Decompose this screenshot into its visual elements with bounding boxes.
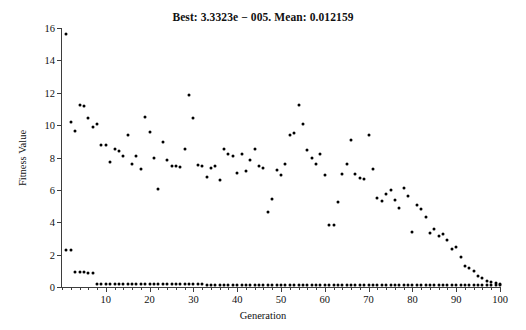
x-tick-minor [447, 287, 448, 290]
data-point [345, 284, 348, 287]
data-point [266, 210, 269, 213]
data-point [126, 133, 129, 136]
x-tick [369, 287, 370, 292]
data-point [179, 166, 182, 169]
data-point [477, 284, 480, 287]
x-tick-minor [307, 287, 308, 290]
x-tick-label: 10 [101, 294, 112, 305]
data-point [319, 284, 322, 287]
data-point [161, 282, 164, 285]
y-axis-label: Fitness Value [17, 130, 28, 186]
data-point [481, 277, 484, 280]
data-point [280, 284, 283, 287]
x-tick-minor [211, 287, 212, 290]
data-point [402, 284, 405, 287]
data-point [223, 148, 226, 151]
data-point [468, 284, 471, 287]
data-point [139, 282, 142, 285]
data-point [371, 284, 374, 287]
data-point [262, 284, 265, 287]
data-point [131, 282, 134, 285]
x-tick-minor [334, 287, 335, 290]
data-point [380, 284, 383, 287]
data-point [266, 284, 269, 287]
data-point [271, 197, 274, 200]
y-tick-label: 10 [45, 120, 56, 131]
data-point [297, 103, 300, 106]
data-point [424, 215, 427, 218]
data-point [389, 284, 392, 287]
y-tick [57, 190, 62, 191]
data-point [157, 282, 160, 285]
data-point [428, 284, 431, 287]
x-tick-label: 70 [363, 294, 374, 305]
data-point [82, 104, 85, 107]
data-point [468, 266, 471, 269]
data-point [323, 284, 326, 287]
data-point [104, 282, 107, 285]
x-tick-minor [272, 287, 273, 290]
data-point [280, 174, 283, 177]
data-point [170, 164, 173, 167]
data-point [301, 122, 304, 125]
data-point [428, 231, 431, 234]
data-point [117, 150, 120, 153]
x-tick-minor [185, 287, 186, 290]
data-point [201, 164, 204, 167]
data-point [293, 284, 296, 287]
data-point [69, 248, 72, 251]
data-point [183, 282, 186, 285]
data-point [442, 284, 445, 287]
x-tick-minor [115, 287, 116, 290]
x-tick-minor [71, 287, 72, 290]
data-point [196, 163, 199, 166]
data-point [393, 284, 396, 287]
y-tick [57, 93, 62, 94]
data-point [100, 282, 103, 285]
data-point [433, 227, 436, 230]
data-point [363, 178, 366, 181]
data-point [385, 192, 388, 195]
data-point [376, 196, 379, 199]
data-point [249, 158, 252, 161]
x-tick-minor [342, 287, 343, 290]
data-point [315, 162, 318, 165]
y-tick-label: 0 [50, 282, 55, 293]
data-point [227, 284, 230, 287]
data-point [354, 284, 357, 287]
data-point [398, 206, 401, 209]
x-tick-minor [220, 287, 221, 290]
data-point [82, 270, 85, 273]
x-tick-minor [395, 287, 396, 290]
data-point [78, 270, 81, 273]
x-tick-minor [202, 287, 203, 290]
data-point [415, 284, 418, 287]
data-point [336, 201, 339, 204]
data-point [485, 280, 488, 283]
data-point [389, 188, 392, 191]
data-point [490, 284, 493, 287]
x-tick [412, 287, 413, 292]
data-point [485, 284, 488, 287]
x-tick [150, 287, 151, 292]
data-point [179, 282, 182, 285]
data-point [74, 129, 77, 132]
x-tick [193, 287, 194, 292]
data-point [350, 284, 353, 287]
y-tick-label: 12 [45, 87, 56, 98]
data-point [455, 245, 458, 248]
data-point [87, 116, 90, 119]
data-point [463, 264, 466, 267]
data-point [117, 282, 120, 285]
data-point [240, 284, 243, 287]
data-point [319, 153, 322, 156]
data-point [341, 173, 344, 176]
x-tick-minor [167, 287, 168, 290]
x-tick-minor [386, 287, 387, 290]
y-tick-label: 8 [50, 152, 55, 163]
data-point [310, 156, 313, 159]
data-point [262, 167, 265, 170]
data-point [407, 195, 410, 198]
data-point [91, 125, 94, 128]
x-tick-label: 50 [276, 294, 287, 305]
